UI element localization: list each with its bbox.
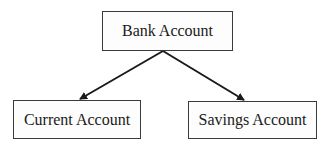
node-bank-account: Bank Account <box>102 11 233 51</box>
node-label: Bank Account <box>122 22 213 40</box>
node-label: Current Account <box>24 111 130 129</box>
edge-root-to-savings <box>163 51 244 100</box>
node-savings-account: Savings Account <box>188 101 317 139</box>
node-label: Savings Account <box>199 111 307 129</box>
node-current-account: Current Account <box>13 100 141 139</box>
edge-root-to-current <box>80 51 163 99</box>
